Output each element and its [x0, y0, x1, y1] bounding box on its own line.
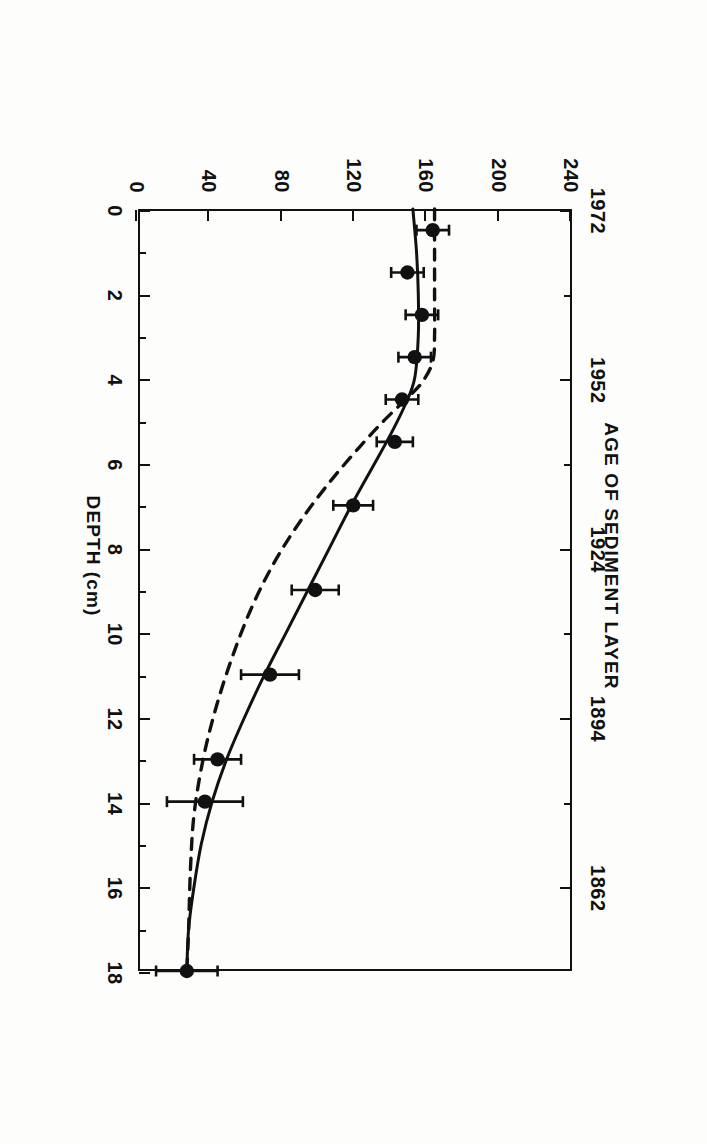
depth-tick-label: 8 [103, 544, 126, 556]
concentration-tick-label: 160 [413, 158, 436, 193]
figure-page: AGE OF SEDIMENT LAYER CONCENTRATION OF L… [0, 0, 707, 1144]
depth-axis-title: DEPTH (cm) [82, 496, 104, 617]
depth-tick-label: 16 [103, 877, 126, 900]
data-point[interactable] [291, 583, 338, 597]
chart-curves [138, 209, 572, 971]
age-tick-label: 1862 [586, 865, 609, 912]
age-tick-label: 1972 [586, 188, 609, 235]
data-point-marker[interactable] [210, 752, 224, 766]
age-tick-label: 1894 [586, 696, 609, 743]
data-point-marker[interactable] [262, 667, 276, 681]
depth-tick-label: 18 [103, 961, 126, 984]
rotated-chart-wrapper: AGE OF SEDIMENT LAYER CONCENTRATION OF L… [16, 121, 616, 991]
concentration-tick [135, 210, 137, 221]
depth-tick-label: 6 [103, 459, 126, 471]
depth-tick-label: 14 [103, 792, 126, 815]
data-point[interactable] [333, 498, 373, 512]
concentration-tick-label: 240 [558, 158, 581, 193]
data-point-marker[interactable] [407, 350, 421, 364]
concentration-tick-label: 80 [269, 170, 292, 193]
data-point-marker[interactable] [414, 308, 428, 322]
depth-tick-label: 2 [103, 290, 126, 302]
data-point-marker[interactable] [394, 392, 408, 406]
depth-tick-label: 12 [103, 707, 126, 730]
age-tick-label: 1924 [586, 526, 609, 573]
age-tick-label: 1952 [586, 357, 609, 404]
data-point[interactable] [405, 308, 438, 322]
data-point[interactable] [156, 964, 217, 978]
data-point-marker[interactable] [179, 964, 193, 978]
data-point[interactable] [376, 435, 412, 449]
data-point-marker[interactable] [425, 223, 439, 237]
concentration-tick-label: 120 [341, 158, 364, 193]
data-point[interactable] [166, 794, 242, 808]
data-point[interactable] [398, 350, 431, 364]
depth-tick-label: 10 [103, 623, 126, 646]
depth-tick-label: 4 [103, 375, 126, 387]
data-point[interactable] [416, 223, 449, 237]
data-point[interactable] [241, 667, 299, 681]
concentration-tick-label: 0 [124, 181, 147, 193]
depth-tick-label: 0 [103, 205, 126, 217]
data-point-marker[interactable] [400, 265, 414, 279]
concentration-tick-label: 40 [196, 170, 219, 193]
concentration-tick-label: 200 [486, 158, 509, 193]
depth-tick-major [139, 972, 150, 974]
concentration-axis-title: CONCENTRATION OF LEAD, µg/g [305, 0, 327, 113]
data-point-marker[interactable] [197, 794, 211, 808]
